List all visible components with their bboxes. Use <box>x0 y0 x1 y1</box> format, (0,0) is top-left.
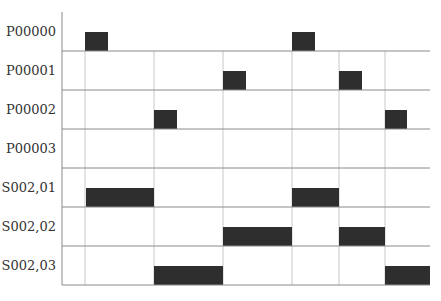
timing-diagram: P00000P00001P00002P00003S002,01S002,02S0… <box>0 0 441 301</box>
pulse <box>223 227 292 246</box>
row-label: P00000 <box>6 24 56 39</box>
pulse <box>85 32 108 51</box>
pulse <box>223 71 246 90</box>
row-label: P00002 <box>6 102 56 117</box>
row-label: S002,02 <box>2 219 56 234</box>
pulse <box>292 188 339 207</box>
row-label: P00001 <box>6 63 56 78</box>
pulse <box>385 266 430 285</box>
pulse <box>385 110 407 129</box>
row-labels: P00000P00001P00002P00003S002,01S002,02S0… <box>2 24 56 273</box>
pulse <box>292 32 315 51</box>
pulse <box>154 110 177 129</box>
pulse <box>339 71 362 90</box>
pulse <box>154 266 223 285</box>
row-label: P00003 <box>6 141 56 156</box>
pulses <box>85 32 430 285</box>
row-label: S002,01 <box>2 180 56 195</box>
row-label: S002,03 <box>2 258 56 273</box>
pulse <box>339 227 385 246</box>
pulse <box>86 188 154 207</box>
